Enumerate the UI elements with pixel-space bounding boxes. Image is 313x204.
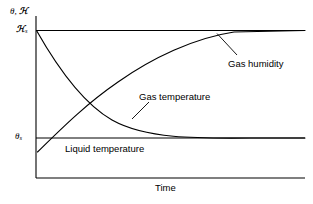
leader-line-gas-humidity xyxy=(217,34,237,56)
hs-subscript: s xyxy=(25,27,28,34)
annotation-liquid-temperature: Liquid temperature xyxy=(65,144,144,154)
y-axis-label: θ, ℋ xyxy=(10,7,28,16)
curve-gas-temperature xyxy=(37,31,306,139)
y-tick-label-hs: ℋs xyxy=(16,25,28,35)
annotation-gas-humidity: Gas humidity xyxy=(228,59,283,69)
hs-symbol: ℋ xyxy=(16,24,25,34)
leader-line-gas-temperature xyxy=(132,102,149,119)
y-tick-label-theta-s: θs xyxy=(15,132,22,142)
figure-container: θ, ℋ ℋs θs Gas humidity Gas temperature … xyxy=(0,0,313,204)
theta-s-subscript: s xyxy=(19,134,22,141)
annotation-gas-temperature: Gas temperature xyxy=(139,92,210,102)
x-axis-label: Time xyxy=(155,183,176,193)
plot-canvas xyxy=(0,0,313,204)
y-axis-label-script-h: ℋ xyxy=(19,6,28,16)
